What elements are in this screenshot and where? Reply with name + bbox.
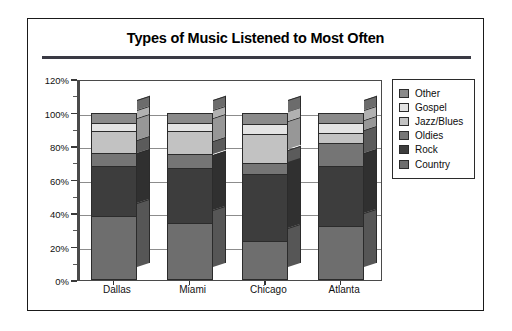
y-axis-label-0%: 0% — [55, 276, 69, 287]
bar-segment-miami-other — [167, 113, 213, 123]
y-minor-tick — [73, 197, 77, 198]
y-tick-40% — [71, 213, 77, 215]
bar-side-segment-country — [213, 206, 226, 267]
plot-area — [79, 80, 382, 281]
bar-segment-atlanta-country — [318, 226, 364, 280]
y-tick-80% — [71, 146, 77, 148]
bar-side-face-atlanta — [364, 79, 377, 280]
legend-swatch-icon-gospel — [399, 103, 409, 112]
bar-side-segment-rock — [364, 149, 377, 214]
y-tick-0% — [71, 280, 77, 282]
legend-swatch-icon-rock — [399, 145, 409, 154]
y-axis-label-80%: 80% — [50, 142, 69, 153]
y-minor-tick — [73, 163, 77, 164]
bar-segment-dallas-oldies — [91, 153, 137, 166]
y-tick-60% — [71, 180, 77, 182]
bar-segment-chicago-jazz-blues — [242, 134, 288, 162]
y-axis-label-40%: 40% — [50, 209, 69, 220]
legend-item-gospel[interactable]: Gospel — [399, 100, 469, 114]
bar-segment-miami-jazz-blues — [167, 131, 213, 154]
bar-segment-atlanta-gospel — [318, 123, 364, 133]
bar-side-segment-country — [288, 224, 301, 267]
bar-segment-chicago-gospel — [242, 124, 288, 134]
title-divider — [42, 56, 471, 59]
legend-label: Other — [415, 88, 440, 99]
bar-segment-atlanta-oldies — [318, 143, 364, 166]
bar-side-segment-country — [137, 199, 150, 267]
bar-segment-atlanta-jazz-blues — [318, 133, 364, 143]
legend-label: Oldies — [415, 130, 443, 141]
bar-front-face-miami — [167, 79, 213, 280]
bar-side-segment-rock — [288, 157, 301, 228]
legend-swatch-icon-oldies — [399, 131, 409, 140]
legend-swatch-icon-other — [399, 89, 409, 98]
bar-segment-miami-country — [167, 223, 213, 280]
bar-side-segment-jazz-blues — [288, 117, 301, 150]
bar-segment-dallas-jazz-blues — [91, 131, 137, 153]
bar-side-segment-country — [364, 209, 377, 267]
x-axis-label-atlanta: Atlanta — [329, 284, 360, 295]
legend-label: Jazz/Blues — [415, 116, 463, 127]
y-axis-label-100%: 100% — [45, 108, 69, 119]
bar-segment-atlanta-rock — [318, 166, 364, 226]
bar-side-face-miami — [213, 79, 226, 280]
bar-side-face-chicago — [288, 79, 301, 280]
y-axis-label-60%: 60% — [50, 175, 69, 186]
bar-segment-chicago-oldies — [242, 163, 288, 175]
x-axis-label-dallas: Dallas — [103, 284, 131, 295]
legend-item-jazz-blues[interactable]: Jazz/Blues — [399, 114, 469, 128]
legend-swatch-icon-jazz-blues — [399, 117, 409, 126]
bar-atlanta — [318, 79, 377, 280]
bar-front-face-chicago — [242, 79, 288, 280]
bar-segment-dallas-gospel — [91, 123, 137, 131]
y-tick-100% — [71, 113, 77, 115]
chart-title: Types of Music Listened to Most Often — [28, 30, 483, 46]
y-axis-label-20%: 20% — [50, 242, 69, 253]
bar-side-segment-rock — [213, 151, 226, 210]
x-axis-labels: DallasMiamiChicagoAtlanta — [79, 284, 382, 300]
bar-segment-dallas-rock — [91, 166, 137, 216]
legend-item-oldies[interactable]: Oldies — [399, 129, 469, 143]
y-tick-120% — [71, 79, 77, 81]
bar-segment-chicago-country — [242, 241, 288, 280]
x-axis-label-chicago: Chicago — [250, 284, 287, 295]
bar-segment-dallas-other — [91, 113, 137, 123]
legend-label: Country — [415, 159, 450, 170]
y-tick-20% — [71, 247, 77, 249]
bar-segment-miami-oldies — [167, 154, 213, 167]
bar-segment-chicago-rock — [242, 174, 288, 241]
bar-side-segment-oldies — [364, 125, 377, 153]
bar-side-segment-rock — [137, 149, 150, 203]
legend-item-country[interactable]: Country — [399, 157, 469, 171]
bar-chicago — [242, 79, 301, 280]
chart-frame: Types of Music Listened to Most Often 0%… — [27, 18, 484, 311]
legend-item-other[interactable]: Other — [399, 86, 469, 100]
bar-segment-miami-rock — [167, 168, 213, 223]
x-axis-label-miami: Miami — [179, 284, 206, 295]
y-minor-tick — [73, 96, 77, 97]
bar-segment-atlanta-other — [318, 113, 364, 123]
bar-front-face-atlanta — [318, 79, 364, 280]
bar-segment-chicago-other — [242, 113, 288, 125]
legend-item-rock[interactable]: Rock — [399, 143, 469, 157]
legend-label: Gospel — [415, 102, 447, 113]
y-minor-tick — [73, 264, 77, 265]
legend-swatch-icon-country — [399, 160, 409, 169]
bar-segment-dallas-country — [91, 216, 137, 280]
bar-miami — [167, 79, 226, 280]
y-minor-tick — [73, 130, 77, 131]
chart-legend: OtherGospelJazz/BluesOldiesRockCountry — [392, 79, 475, 179]
bar-segment-miami-gospel — [167, 123, 213, 131]
bar-dallas — [91, 79, 150, 280]
bar-front-face-dallas — [91, 79, 137, 280]
y-axis-label-120%: 120% — [45, 75, 69, 86]
legend-label: Rock — [415, 144, 438, 155]
y-axis-labels: 0%20%40%60%80%100%120% — [28, 80, 77, 281]
bar-side-face-dallas — [137, 79, 150, 280]
y-minor-tick — [73, 230, 77, 231]
